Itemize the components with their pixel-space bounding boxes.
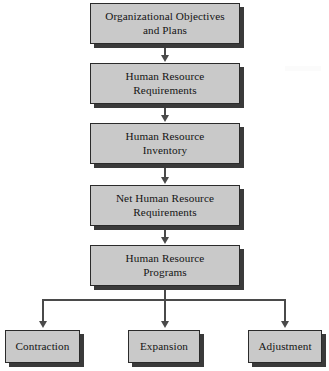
branch-arrowhead-adjustment (281, 321, 289, 328)
connector-arrowhead-2 (161, 115, 169, 122)
process-box-objectives[interactable]: Organizational Objectives and Plans (90, 3, 240, 44)
process-box-label: Organizational Objectives and Plans (100, 10, 229, 36)
flowchart-diagram: Organizational Objectives and Plans Huma… (0, 0, 329, 371)
process-box-inventory[interactable]: Human Resource Inventory (90, 123, 240, 164)
connector-arrowhead-3 (161, 177, 169, 184)
branch-line-adjustment (284, 299, 286, 322)
process-box-net-requirements[interactable]: Net Human Resource Requirements (90, 185, 240, 226)
branch-arrowhead-contraction (39, 321, 47, 328)
connector-arrowhead-1 (161, 55, 169, 62)
process-box-label: Human Resource Requirements (121, 70, 210, 96)
process-box-label: Human Resource Inventory (121, 130, 210, 156)
branch-arrowhead-expansion (161, 321, 169, 328)
process-box-label: Human Resource Programs (121, 252, 210, 278)
process-box-requirements[interactable]: Human Resource Requirements (90, 63, 240, 104)
outcome-box-label: Expansion (135, 340, 193, 353)
process-box-label: Net Human Resource Requirements (111, 192, 219, 218)
outcome-box-contraction[interactable]: Contraction (5, 330, 80, 363)
outcome-box-expansion[interactable]: Expansion (128, 330, 200, 363)
connector-arrowhead-4 (161, 237, 169, 244)
outcome-box-label: Contraction (11, 340, 75, 353)
outcome-box-adjustment[interactable]: Adjustment (248, 330, 322, 363)
branch-line-contraction (42, 299, 44, 322)
outcome-box-label: Adjustment (253, 340, 316, 353)
branch-line-expansion (164, 299, 166, 322)
scan-artifact (285, 66, 321, 71)
process-box-programs[interactable]: Human Resource Programs (90, 245, 240, 286)
